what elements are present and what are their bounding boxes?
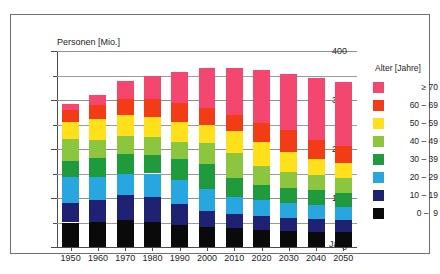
bar-segment[interactable]: [144, 99, 161, 117]
bar-segment[interactable]: [280, 172, 297, 188]
bar-segment[interactable]: [62, 161, 79, 177]
bar-segment[interactable]: [308, 190, 325, 205]
bar-segment[interactable]: [226, 197, 243, 214]
bar-segment[interactable]: [144, 155, 161, 174]
bar-segment[interactable]: [62, 110, 79, 122]
bar-segment[interactable]: [253, 216, 270, 230]
bar-segment[interactable]: [89, 119, 106, 140]
bar-stack[interactable]: [144, 51, 161, 247]
bar-segment[interactable]: [280, 130, 297, 152]
bar-segment[interactable]: [308, 232, 325, 247]
bar-segment[interactable]: [335, 232, 352, 247]
bar-segment[interactable]: [171, 225, 188, 247]
legend-item[interactable]: 50 – 59: [373, 116, 439, 134]
bar-segment[interactable]: [117, 174, 134, 194]
bar-segment[interactable]: [335, 220, 352, 232]
bar-segment[interactable]: [253, 166, 270, 185]
bar-segment[interactable]: [117, 154, 134, 174]
bar-segment[interactable]: [117, 195, 134, 220]
bar-segment[interactable]: [89, 158, 106, 177]
legend-item[interactable]: 20 – 29: [373, 170, 439, 188]
bar-segment[interactable]: [335, 207, 352, 220]
bar-segment[interactable]: [62, 122, 79, 139]
bar-segment[interactable]: [62, 139, 79, 161]
bar-segment[interactable]: [62, 223, 79, 248]
bar-segment[interactable]: [199, 227, 216, 247]
bar-segment[interactable]: [335, 178, 352, 193]
bar-segment[interactable]: [253, 185, 270, 201]
bar-segment[interactable]: [253, 200, 270, 215]
legend-item[interactable]: ≥ 70: [373, 80, 439, 98]
bar-segment[interactable]: [335, 82, 352, 146]
bar-segment[interactable]: [308, 219, 325, 232]
bar-segment[interactable]: [89, 140, 106, 159]
bar-segment[interactable]: [253, 70, 270, 123]
bar-segment[interactable]: [89, 222, 106, 247]
bar-segment[interactable]: [199, 68, 216, 108]
bar-segment[interactable]: [280, 152, 297, 172]
bar-segment[interactable]: [280, 188, 297, 203]
bar-segment[interactable]: [171, 159, 188, 180]
bar-segment[interactable]: [62, 104, 79, 110]
bar-segment[interactable]: [226, 228, 243, 247]
bar-segment[interactable]: [171, 103, 188, 121]
bar-segment[interactable]: [171, 72, 188, 104]
bar-segment[interactable]: [308, 159, 325, 175]
bar-segment[interactable]: [199, 164, 216, 189]
bar-segment[interactable]: [144, 222, 161, 247]
legend-item[interactable]: 0 – 9: [373, 206, 439, 224]
bar-segment[interactable]: [117, 220, 134, 247]
bar-segment[interactable]: [308, 78, 325, 140]
bar-segment[interactable]: [280, 231, 297, 247]
bar-segment[interactable]: [199, 108, 216, 125]
bar-segment[interactable]: [89, 95, 106, 106]
bar-stack[interactable]: [280, 51, 297, 247]
bar-segment[interactable]: [253, 142, 270, 167]
bar-segment[interactable]: [117, 81, 134, 99]
bar-stack[interactable]: [226, 51, 243, 247]
bar-segment[interactable]: [226, 153, 243, 178]
bar-stack[interactable]: [199, 51, 216, 247]
bar-segment[interactable]: [308, 140, 325, 159]
legend-item[interactable]: 30 – 39: [373, 152, 439, 170]
legend-item[interactable]: 60 – 69: [373, 98, 439, 116]
bar-segment[interactable]: [144, 197, 161, 222]
bar-segment[interactable]: [89, 200, 106, 222]
bar-segment[interactable]: [308, 205, 325, 219]
bar-segment[interactable]: [280, 203, 297, 218]
bar-segment[interactable]: [199, 125, 216, 143]
bar-segment[interactable]: [280, 218, 297, 232]
bar-segment[interactable]: [335, 146, 352, 164]
bar-segment[interactable]: [144, 117, 161, 137]
bar-segment[interactable]: [226, 131, 243, 153]
bar-stack[interactable]: [89, 51, 106, 247]
legend-item[interactable]: 40 – 49: [373, 134, 439, 152]
bar-segment[interactable]: [117, 99, 134, 116]
bar-segment[interactable]: [335, 163, 352, 178]
bar-segment[interactable]: [308, 175, 325, 190]
bar-segment[interactable]: [226, 115, 243, 131]
bar-segment[interactable]: [199, 143, 216, 164]
bar-segment[interactable]: [253, 123, 270, 142]
bar-segment[interactable]: [171, 142, 188, 159]
bar-segment[interactable]: [89, 177, 106, 200]
bar-stack[interactable]: [335, 51, 352, 247]
bar-segment[interactable]: [199, 211, 216, 227]
bar-segment[interactable]: [171, 122, 188, 142]
bar-stack[interactable]: [62, 51, 79, 247]
bar-segment[interactable]: [226, 178, 243, 197]
bar-segment[interactable]: [171, 180, 188, 205]
bar-segment[interactable]: [335, 193, 352, 207]
bar-segment[interactable]: [144, 137, 161, 155]
bar-segment[interactable]: [280, 74, 297, 131]
bar-segment[interactable]: [171, 204, 188, 225]
legend-item[interactable]: 10 – 19: [373, 188, 439, 206]
bar-segment[interactable]: [144, 174, 161, 197]
bar-segment[interactable]: [144, 76, 161, 100]
bar-segment[interactable]: [226, 214, 243, 229]
bar-stack[interactable]: [253, 51, 270, 247]
bar-segment[interactable]: [226, 68, 243, 116]
bar-segment[interactable]: [62, 203, 79, 222]
bar-segment[interactable]: [253, 230, 270, 247]
bar-segment[interactable]: [62, 177, 79, 203]
